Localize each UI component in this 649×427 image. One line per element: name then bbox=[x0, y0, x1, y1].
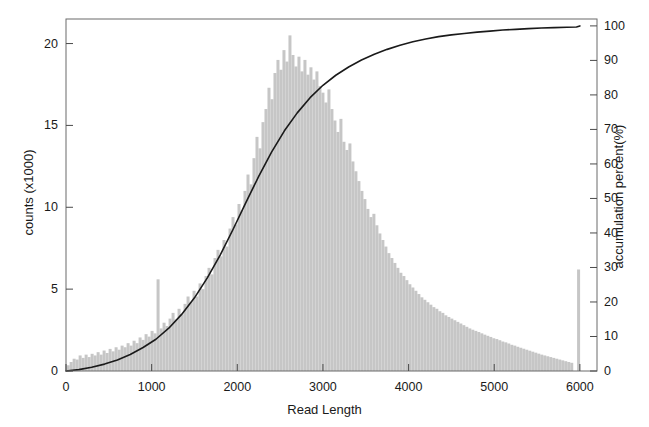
histogram-bar bbox=[327, 89, 330, 371]
histogram-bar bbox=[261, 122, 264, 371]
histogram-bar bbox=[384, 247, 387, 371]
histogram-bar bbox=[190, 302, 193, 371]
histogram-bar bbox=[336, 132, 339, 371]
histogram-bar bbox=[279, 70, 282, 371]
histogram-bar bbox=[244, 191, 247, 371]
histogram-bar bbox=[97, 352, 100, 371]
histogram-bar bbox=[528, 351, 531, 371]
histogram-bar bbox=[235, 224, 238, 371]
histogram-bar bbox=[139, 337, 142, 371]
histogram-bar bbox=[546, 356, 549, 371]
histogram-bar bbox=[561, 360, 564, 371]
x-tick-label: 1000 bbox=[122, 381, 182, 394]
histogram-bar bbox=[148, 337, 151, 371]
histogram-bar bbox=[525, 350, 528, 371]
histogram-bar bbox=[136, 343, 139, 371]
x-tick-label: 3000 bbox=[293, 381, 353, 394]
histogram-bar bbox=[202, 289, 205, 371]
histogram-bar bbox=[342, 142, 345, 371]
histogram-bar bbox=[570, 363, 573, 371]
x-axis-title: Read Length bbox=[0, 403, 649, 416]
chart-canvas bbox=[0, 0, 649, 427]
histogram-bar bbox=[540, 355, 543, 371]
histogram-bar bbox=[567, 362, 570, 371]
histogram-bar bbox=[489, 337, 492, 371]
histogram-bar bbox=[157, 279, 160, 371]
histogram-bar bbox=[306, 75, 309, 371]
histogram-bar bbox=[303, 60, 306, 371]
histogram-bar bbox=[372, 214, 375, 371]
histogram-bar bbox=[94, 355, 97, 371]
histogram-bar bbox=[267, 88, 270, 371]
histogram-bar bbox=[444, 315, 447, 371]
histogram-bar bbox=[270, 99, 273, 371]
histogram-bar bbox=[205, 276, 208, 371]
histogram-bar bbox=[435, 309, 438, 371]
histogram-bar bbox=[354, 171, 357, 371]
histogram-bar bbox=[564, 361, 567, 371]
x-tick-label: 4000 bbox=[379, 381, 439, 394]
histogram-bar bbox=[255, 137, 258, 371]
histogram-bar bbox=[411, 288, 414, 372]
histogram-bar bbox=[333, 121, 336, 371]
histogram-bar bbox=[166, 326, 169, 371]
histogram-bar bbox=[498, 340, 501, 371]
histogram-bar bbox=[133, 341, 136, 371]
histogram-bar bbox=[232, 217, 235, 371]
histogram-bar bbox=[91, 354, 94, 371]
histogram-bar bbox=[558, 360, 561, 371]
x-tick-label: 6000 bbox=[550, 381, 610, 394]
histogram-bar bbox=[100, 355, 103, 371]
histogram-bar bbox=[414, 291, 417, 371]
histogram-bar bbox=[285, 62, 288, 371]
histogram-bar bbox=[220, 256, 223, 371]
histogram-bar bbox=[543, 355, 546, 371]
histogram-bar bbox=[438, 311, 441, 371]
y-tick-label-right: 90 bbox=[604, 54, 618, 67]
histogram-bar bbox=[273, 73, 276, 371]
histogram-bar bbox=[577, 269, 580, 371]
histogram-bar bbox=[208, 268, 211, 371]
histogram-bar bbox=[124, 347, 127, 371]
histogram-bar bbox=[115, 347, 118, 371]
histogram-bar bbox=[408, 284, 411, 371]
histogram-bar bbox=[184, 304, 187, 371]
histogram-bar bbox=[357, 181, 360, 371]
histogram-bar bbox=[241, 211, 244, 371]
histogram-bar bbox=[217, 250, 220, 371]
histogram-bar bbox=[339, 119, 342, 371]
histogram-bar bbox=[495, 339, 498, 371]
y-tick-label-left: 5 bbox=[18, 283, 58, 296]
histogram-bar bbox=[330, 109, 333, 371]
y-tick-label-left: 0 bbox=[18, 365, 58, 378]
y-tick-label-right: 0 bbox=[604, 365, 611, 378]
histogram-bar bbox=[378, 233, 381, 371]
histogram-bar bbox=[405, 280, 408, 371]
histogram-bar bbox=[402, 276, 405, 371]
histogram-bar bbox=[390, 258, 393, 371]
histogram-bar bbox=[369, 217, 372, 371]
histogram-bar bbox=[534, 353, 537, 371]
histogram-bar bbox=[429, 305, 432, 371]
histogram-bar bbox=[258, 148, 261, 371]
histogram-bar bbox=[252, 158, 255, 371]
y-axis-right-title: accumulation percent(%) bbox=[612, 107, 625, 287]
histogram-bar bbox=[312, 80, 315, 371]
histogram-bar bbox=[513, 346, 516, 371]
histogram-bar bbox=[291, 55, 294, 371]
histogram-bar bbox=[552, 358, 555, 371]
histogram-bar bbox=[288, 35, 291, 371]
histogram-bar bbox=[471, 330, 474, 371]
histogram-bar bbox=[381, 240, 384, 371]
histogram-bar bbox=[432, 307, 435, 371]
histogram-bar bbox=[423, 300, 426, 371]
histogram-bar bbox=[363, 199, 366, 371]
histogram-bar bbox=[163, 323, 166, 371]
histogram-bar bbox=[450, 319, 453, 371]
histogram-bar bbox=[456, 322, 459, 371]
histogram-bar bbox=[247, 175, 250, 371]
histogram-bar bbox=[324, 103, 327, 372]
histogram-bar bbox=[130, 346, 133, 371]
histogram-bar bbox=[214, 258, 217, 371]
histogram-bar bbox=[420, 297, 423, 371]
